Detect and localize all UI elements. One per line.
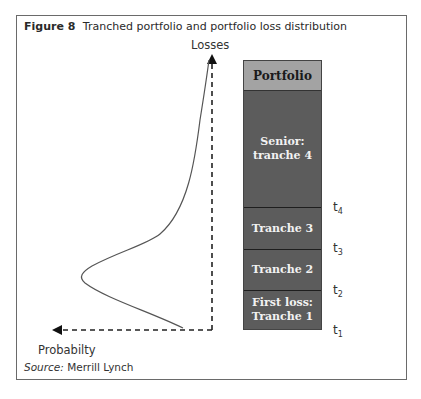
tranche-label: Tranche 2 [252,263,313,277]
threshold-t4: t4 [333,200,343,216]
threshold-t2: t2 [333,283,343,299]
probability-axis-label: Probabilty [38,343,96,357]
tranche-2: Tranche 2 [244,249,321,290]
losses-axis-label: Losses [191,38,229,52]
threshold-t1: t1 [333,323,343,339]
tranche-stack: Portfolio Senior: tranche 4 Tranche 3 Tr… [243,60,322,330]
tranche-1-first-loss: First loss: Tranche 1 [244,290,321,329]
source-label: Source: [24,361,64,373]
figure-source: Source: Merrill Lynch [24,361,133,373]
tranche-label: Tranche 1 [252,310,313,324]
tranche-label: tranche 4 [253,149,312,163]
tranche-label: Tranche 3 [252,222,313,236]
tranche-label: Senior: [260,135,304,149]
tranche-senior: Senior: tranche 4 [244,91,321,207]
source-value: Merrill Lynch [67,361,133,373]
portfolio-header: Portfolio [244,61,321,91]
threshold-t3: t3 [333,241,343,257]
tranche-label: First loss: [252,296,313,310]
left-arrow-icon [52,325,62,335]
loss-distribution-plot [0,0,421,399]
loss-distribution-curve [81,60,209,328]
tranche-3: Tranche 3 [244,207,321,249]
